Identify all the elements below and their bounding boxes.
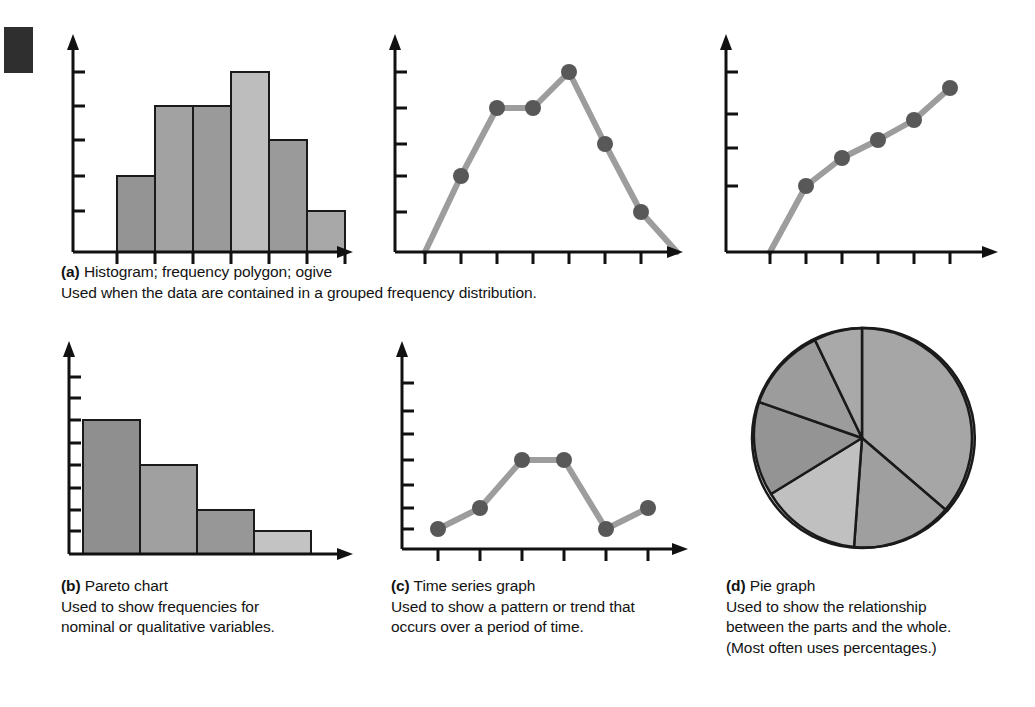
- x-axis-arrow-icon: [672, 543, 688, 555]
- pareto-panel: [55, 335, 365, 560]
- frequency-polygon-panel: [385, 28, 685, 258]
- polyline-series: [438, 460, 648, 529]
- caption-line: nominal or qualitative variables.: [61, 617, 275, 638]
- y-axis-arrow-icon: [63, 341, 75, 357]
- bar: [117, 176, 155, 252]
- pareto-chart: [55, 335, 365, 560]
- y-axis-arrow-icon: [396, 341, 408, 357]
- ogive-panel: [700, 28, 1000, 258]
- y-axis-arrow-icon: [720, 34, 732, 50]
- bar: [83, 420, 140, 554]
- caption-histogram: (a) Histogram; frequency polygon; ogive …: [61, 262, 537, 303]
- y-axis-arrow-icon: [67, 34, 79, 50]
- caption-line: between the parts and the whole.: [726, 617, 951, 638]
- bar: [197, 510, 254, 554]
- caption-lead: (b): [61, 577, 81, 594]
- caption-title: Pareto chart: [85, 577, 168, 594]
- pie-panel: [740, 318, 990, 563]
- data-point: [472, 500, 488, 516]
- caption-pie: (d) Pie graph Used to show the relations…: [726, 576, 951, 658]
- caption-line: occurs over a period of time.: [391, 617, 635, 638]
- data-point: [906, 112, 922, 128]
- ogive-chart: [700, 28, 1000, 258]
- caption-line: Used when the data are contained in a gr…: [61, 283, 537, 304]
- caption-lead: (c): [391, 577, 410, 594]
- caption-pareto: (b) Pareto chart Used to show frequencie…: [61, 576, 275, 638]
- caption-title: Histogram; frequency polygon; ogive: [84, 263, 332, 280]
- pareto-bars: [83, 420, 311, 554]
- bar: [269, 140, 307, 252]
- histogram-bars: [117, 72, 345, 252]
- data-point: [453, 168, 469, 184]
- data-point: [514, 452, 530, 468]
- histogram-panel: [55, 28, 355, 258]
- polyline-series: [425, 72, 677, 252]
- page-edge-marker: [4, 27, 33, 73]
- histogram-chart: [55, 28, 355, 258]
- caption-title: Time series graph: [414, 577, 536, 594]
- caption-title: Pie graph: [750, 577, 815, 594]
- bar: [254, 531, 311, 554]
- data-point: [597, 136, 613, 152]
- data-point: [556, 452, 572, 468]
- bar: [231, 72, 269, 252]
- caption-lead: (a): [61, 263, 80, 280]
- pie-chart: [740, 318, 990, 563]
- caption-line: Used to show a pattern or trend that: [391, 597, 635, 618]
- data-point: [640, 500, 656, 516]
- data-point: [870, 132, 886, 148]
- data-point: [430, 521, 446, 537]
- frequency-polygon-chart: [385, 28, 685, 258]
- caption-line: (Most often uses percentages.): [726, 638, 951, 659]
- y-axis-arrow-icon: [389, 34, 401, 50]
- data-point: [598, 521, 614, 537]
- caption-time-series: (c) Time series graph Used to show a pat…: [391, 576, 635, 638]
- time-series-panel: [390, 335, 690, 560]
- figure-page: (a) Histogram; frequency polygon; ogive …: [0, 0, 1035, 707]
- bar: [155, 106, 193, 252]
- bar: [307, 211, 345, 252]
- data-point: [489, 100, 505, 116]
- data-point: [561, 64, 577, 80]
- x-axis-arrow-icon: [337, 548, 353, 560]
- data-point: [798, 178, 814, 194]
- x-axis-arrow-icon: [982, 246, 998, 258]
- data-point: [942, 80, 958, 96]
- caption-line: Used to show the relationship: [726, 597, 951, 618]
- time-series-chart: [390, 335, 690, 560]
- caption-lead: (d): [726, 577, 746, 594]
- data-point: [834, 150, 850, 166]
- polyline-series: [770, 88, 950, 252]
- bar: [140, 465, 197, 554]
- data-point: [525, 100, 541, 116]
- caption-line: Used to show frequencies for: [61, 597, 275, 618]
- bar: [193, 106, 231, 252]
- data-point: [633, 204, 649, 220]
